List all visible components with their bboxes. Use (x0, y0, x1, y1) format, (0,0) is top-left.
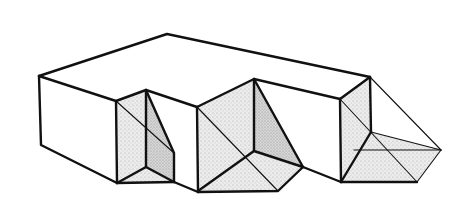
isometric-notched-block-figure (0, 0, 466, 199)
notch-3 (340, 77, 441, 182)
figure-canvas (0, 0, 466, 199)
